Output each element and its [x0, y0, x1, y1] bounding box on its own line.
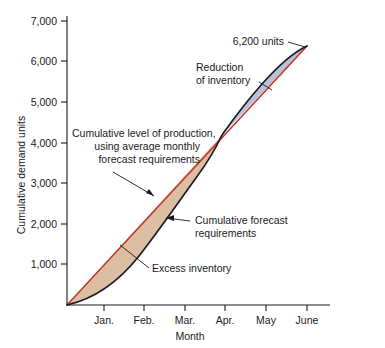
annotation-production-line3: forecast requirements — [98, 153, 200, 165]
y-tick-label-3000: 3,000 — [31, 177, 57, 189]
annotation-production-line1: Cumulative level of production, — [72, 127, 216, 139]
y-tick-label-2000: 2,000 — [31, 218, 57, 230]
annotation-excess-inventory: Excess inventory — [152, 262, 232, 274]
y-tick-label-1000: 1,000 — [31, 258, 57, 270]
annotation-reduction-line2: of inventory — [196, 74, 251, 86]
cumulative-demand-chart: 7,000 6,000 5,000 4,000 3,000 2,000 1,00… — [0, 0, 385, 348]
x-tick-label-may: May — [256, 314, 277, 326]
annotation-forecast-line2: requirements — [195, 227, 256, 239]
x-tick-label-jan: Jan. — [94, 314, 114, 326]
annotation-production-line2: using average monthly — [94, 140, 200, 152]
x-axis-title: Month — [175, 330, 204, 342]
annotation-forecast-line1: Cumulative forecast — [195, 214, 288, 226]
annotation-endpoint-value: 6,200 units — [233, 35, 284, 47]
y-tick-label-6000: 6,000 — [31, 55, 57, 67]
y-tick-label-4000: 4,000 — [31, 137, 57, 149]
y-tick-label-7000: 7,000 — [31, 15, 57, 27]
annotation-reduction-line1: Reduction — [196, 61, 243, 73]
y-tick-label-5000: 5,000 — [31, 96, 57, 108]
x-tick-label-june: June — [296, 314, 319, 326]
x-tick-label-apr: Apr. — [216, 314, 235, 326]
x-tick-label-feb: Feb. — [133, 314, 154, 326]
x-tick-label-mar: Mar. — [175, 314, 195, 326]
y-axis-title: Cumulative demand units — [15, 116, 27, 234]
